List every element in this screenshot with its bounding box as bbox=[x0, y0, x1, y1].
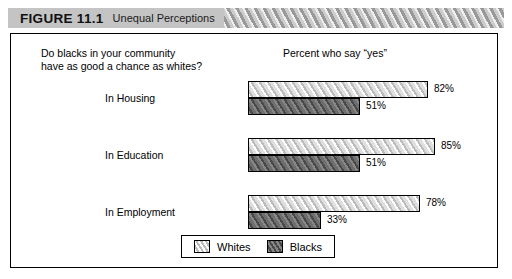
bar-housing-blacks bbox=[248, 98, 360, 115]
bar-chart-plot: In Housing 82% 51% In Education 85% bbox=[11, 34, 497, 267]
bar-value-employment-blacks: 33% bbox=[327, 214, 347, 225]
figure-frame: Do blacks in your community have as good… bbox=[10, 33, 498, 268]
category-label-employment: In Employment bbox=[105, 206, 175, 218]
bar-employment-blacks bbox=[248, 212, 321, 229]
legend-label-whites: Whites bbox=[217, 241, 251, 253]
bar-value-employment-whites: 78% bbox=[426, 197, 446, 208]
legend-swatch-whites bbox=[194, 240, 210, 253]
bar-housing-whites bbox=[248, 81, 428, 98]
bar-value-education-whites: 85% bbox=[441, 140, 461, 151]
figure-header-titles: FIGURE 11.1 Unequal Perceptions bbox=[20, 8, 215, 28]
legend-entry-blacks: Blacks bbox=[267, 240, 322, 253]
figure-number: FIGURE 11.1 bbox=[20, 11, 104, 26]
category-label-education: In Education bbox=[105, 149, 163, 161]
bar-group-education: In Education 85% 51% bbox=[11, 135, 497, 179]
bar-group-employment: In Employment 78% 33% bbox=[11, 192, 497, 236]
legend-swatch-blacks bbox=[267, 240, 283, 253]
category-label-housing: In Housing bbox=[105, 92, 155, 104]
bar-education-blacks bbox=[248, 155, 360, 172]
bar-group-housing: In Housing 82% 51% bbox=[11, 78, 497, 122]
chart-legend: Whites Blacks bbox=[181, 235, 335, 258]
bar-value-housing-blacks: 51% bbox=[366, 100, 386, 111]
figure-title: Unequal Perceptions bbox=[113, 12, 215, 24]
bar-value-education-blacks: 51% bbox=[366, 157, 386, 168]
bar-education-whites bbox=[248, 138, 435, 155]
legend-entry-whites: Whites bbox=[194, 240, 251, 253]
figure-header-band: FIGURE 11.1 Unequal Perceptions bbox=[8, 8, 504, 28]
bar-value-housing-whites: 82% bbox=[434, 83, 454, 94]
bar-employment-whites bbox=[248, 195, 420, 212]
legend-label-blacks: Blacks bbox=[290, 241, 322, 253]
